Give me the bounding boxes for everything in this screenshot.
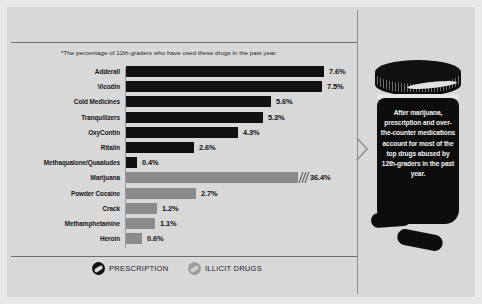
bar-value-label: 1.1% [160, 219, 176, 228]
bar-rx [126, 112, 263, 123]
bar-value-label: 2.7% [201, 189, 217, 198]
bar-illicit [126, 233, 142, 244]
legend-label: PRESCRIPTION [109, 264, 168, 273]
callout-text: After marijuana, prescription and over-t… [379, 108, 457, 179]
bar-row: Methamphetamine1.1% [11, 218, 358, 232]
bar-label: Crack [0, 205, 120, 212]
bar-row: Marijuana36.4% [11, 172, 358, 186]
capsule-pill-icon [371, 211, 412, 229]
pill-bottle-illustration: After marijuana, prescription and over-t… [367, 56, 475, 276]
bar-rx [126, 127, 238, 138]
pill-glyph [94, 264, 104, 272]
bar-label: Marijuana [0, 174, 120, 181]
bar-label: Adderall [0, 68, 120, 75]
bar-row: Ritalin2.6% [11, 142, 358, 156]
legend-label: ILLICIT DRUGS [205, 264, 262, 273]
bar-value-label: 7.6% [329, 67, 345, 76]
chart-legend: PRESCRIPTIONILLICIT DRUGS [11, 262, 358, 284]
bar-value-label: 7.5% [327, 82, 343, 91]
top-divider-rule [11, 42, 358, 43]
bar-row: Vicodin7.5% [11, 81, 358, 95]
bar-rx [126, 81, 322, 92]
bar-chart: Adderall7.6%Vicodin7.5%Cold Medicines5.6… [11, 66, 358, 252]
bar-rx [126, 157, 137, 168]
bar-label: Methaqualone/Quaaludes [0, 159, 120, 166]
bar-rx [126, 66, 324, 77]
bar-row: Heroin0.6% [11, 233, 358, 247]
pill-icon [188, 262, 201, 275]
pill-glyph [190, 264, 200, 272]
bar-row: Crack1.2% [11, 203, 358, 217]
legend-item-prescription: PRESCRIPTION [92, 262, 168, 275]
bar-value-label: 36.4% [310, 173, 330, 182]
pill-icon [92, 262, 105, 275]
bar-rx [126, 142, 194, 153]
axis-break-marks [298, 172, 310, 183]
bar-value-label: 1.2% [162, 204, 178, 213]
bar-label: Methamphetamine [0, 220, 120, 227]
bar-label: Ritalin [0, 144, 120, 151]
bar-illicit [126, 218, 155, 229]
bar-row: Adderall7.6% [11, 66, 358, 80]
bar-illicit [126, 188, 196, 199]
bar-illicit [126, 172, 298, 183]
bar-value-label: 0.4% [142, 158, 158, 167]
bar-row: Powder Cocaine2.7% [11, 188, 358, 202]
bar-label: Powder Cocaine [0, 190, 120, 197]
bar-label: OxyContin [0, 129, 120, 136]
bar-label: Cold Medicines [0, 98, 120, 105]
bar-value-label: 5.6% [276, 97, 292, 106]
chart-subtitle: *The percentage of 12th-graders who have… [61, 49, 351, 56]
bar-label: Vicodin [0, 83, 120, 90]
bar-row: OxyContin4.3% [11, 127, 358, 141]
bar-label: Tranquilizers [0, 114, 120, 121]
legend-item-illicit: ILLICIT DRUGS [188, 262, 262, 275]
infographic-root: *The percentage of 12th-graders who have… [0, 0, 482, 304]
bar-value-label: 2.6% [199, 143, 215, 152]
bar-value-label: 4.3% [243, 128, 259, 137]
bar-value-label: 0.6% [147, 234, 163, 243]
bar-illicit [126, 203, 157, 214]
bar-row: Tranquilizers5.3% [11, 112, 358, 126]
bottom-divider-rule [11, 256, 358, 257]
capsule-pill-icon [396, 228, 444, 252]
bar-row: Methaqualone/Quaaludes0.4% [11, 157, 358, 171]
bar-label: Heroin [0, 235, 120, 242]
bar-row: Cold Medicines5.6% [11, 96, 358, 110]
bar-rx [126, 96, 271, 107]
bar-value-label: 5.3% [268, 113, 284, 122]
